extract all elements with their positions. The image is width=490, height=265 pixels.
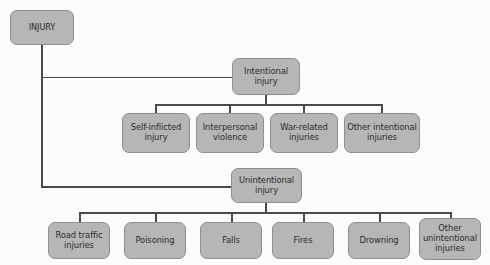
node-war-related-injuries[interactable]: War-related injuries [270, 113, 338, 153]
node-intentional-injury-label-line1: Intentional [242, 67, 290, 77]
node-other-unintentional-injuries[interactable]: Other unintentional injuries [419, 218, 481, 260]
node-fires[interactable]: Fires [272, 222, 334, 259]
node-unintentional-injury-label-line1: Unintentional [237, 176, 296, 186]
node-other-unintentional-injuries-label-line3: injuries [433, 244, 467, 254]
node-self-inflicted-injury-label-line2: injury [142, 133, 169, 143]
node-interpersonal-violence-label-line2: violence [211, 133, 249, 143]
node-drowning[interactable]: Drowning [348, 222, 410, 259]
node-falls[interactable]: Falls [200, 222, 262, 259]
node-drowning-label: Drowning [357, 236, 400, 246]
node-other-intentional-injuries-label-line2: injuries [365, 133, 399, 143]
connector-root-to-unintentional [41, 186, 233, 188]
connector-root-stem [41, 44, 43, 188]
connector-intentional-bus [155, 104, 382, 106]
node-road-traffic-injuries-label-line1: Road traffic [53, 231, 104, 241]
node-intentional-injury-label-line2: injury [252, 77, 279, 87]
node-intentional-injury[interactable]: Intentional injury [232, 58, 300, 95]
node-self-inflicted-injury[interactable]: Self-inflicted injury [122, 113, 190, 153]
node-injury[interactable]: INJURY [10, 10, 74, 45]
node-interpersonal-violence[interactable]: Interpersonal violence [196, 113, 264, 153]
node-fires-label: Fires [292, 236, 315, 246]
node-falls-label: Falls [220, 236, 242, 246]
connector-drop-fires [303, 212, 305, 222]
node-war-related-injuries-label-line2: injuries [287, 133, 321, 143]
injury-classification-diagram: INJURY Intentional injury Self-inflicted… [0, 0, 490, 265]
connector-drop-drowning [379, 212, 381, 222]
node-unintentional-injury-label-line2: injury [253, 186, 280, 196]
node-other-intentional-injuries[interactable]: Other intentional injuries [344, 113, 420, 153]
node-road-traffic-injuries[interactable]: Road traffic injuries [48, 222, 110, 259]
node-poisoning-label: Poisoning [133, 236, 176, 246]
connector-unintentional-bus [79, 212, 451, 214]
node-unintentional-injury[interactable]: Unintentional injury [231, 168, 302, 203]
connector-drop-road-traffic [79, 212, 81, 222]
connector-drop-falls [231, 212, 233, 222]
connector-drop-poisoning [155, 212, 157, 222]
node-road-traffic-injuries-label-line2: injuries [62, 241, 96, 251]
node-poisoning[interactable]: Poisoning [124, 222, 186, 259]
connector-root-to-intentional [41, 77, 233, 79]
node-injury-label: INJURY [27, 23, 58, 33]
